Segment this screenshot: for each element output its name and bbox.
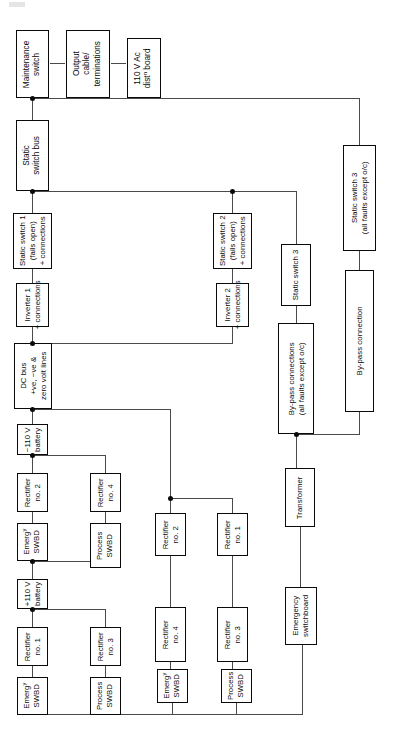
box-label: Static switch 3 — [291, 250, 301, 301]
box-label: Rectifierno. 1 — [23, 632, 43, 661]
box-battery-minus-110[interactable]: −110 Vbattery — [17, 424, 48, 455]
junction-dot-ss2-bus — [230, 189, 235, 194]
connector-rect4-to-process-a — [105, 512, 106, 523]
box-label: Rectifierno. 3 — [96, 632, 116, 661]
box-dc-bus[interactable]: DC bus+ve, −ve &zero volt lines — [14, 343, 52, 409]
box-transformer[interactable]: Transformer — [285, 468, 315, 527]
connector-rect1-to-emerg-b — [32, 666, 33, 677]
box-label: Static switch 3(all faults except o/c) — [350, 162, 370, 235]
box-label: Static switch 2(fails open)+ connections — [218, 216, 247, 267]
connector-battminus-split — [32, 455, 106, 456]
connector-battminus-branch-down — [170, 409, 171, 498]
box-label: Rectifierno. 2 — [161, 520, 181, 549]
box-rectifier-no-3-left[interactable]: Rectifierno. 3 — [90, 627, 121, 666]
box-label: Outputcable/terminations — [72, 41, 103, 86]
box-output-cable-terminations[interactable]: Outputcable/terminations — [66, 30, 110, 98]
connector-rect1mid-to-rect3mid — [232, 556, 233, 607]
connector-dcbus-to-inverter2 — [232, 327, 233, 344]
box-label: 110 V Acdistn board — [134, 48, 155, 88]
junction-dot-dcbus — [30, 341, 35, 346]
connector-emerg-c-to-bottom — [172, 703, 173, 715]
box-rectifier-no-2-mid[interactable]: Rectifierno. 2 — [155, 513, 186, 556]
box-label: +110 Vbattery — [23, 582, 43, 607]
connector-battminus-branch-right — [32, 409, 171, 410]
box-rectifier-no-2-left[interactable]: Rectifierno. 2 — [17, 473, 48, 512]
box-process-swbd-b[interactable]: ProcessSWBD — [90, 677, 121, 715]
box-label: DC bus+ve, −ve &zero volt lines — [18, 352, 47, 400]
connector-bypass-join-horizontal — [296, 434, 359, 435]
connector-rect4mid-to-emerg-c — [170, 662, 171, 669]
connector-rect3-to-process-b — [105, 666, 106, 677]
connector-output-to-distboard — [111, 63, 126, 64]
box-rectifier-no-4-mid[interactable]: Rectifierno. 4 — [155, 607, 186, 662]
connector-right-riser-to-ss3b — [359, 98, 360, 145]
junction-dot-batt-minus-bottom — [30, 453, 35, 458]
box-emerg-swbd-b[interactable]: EmergySWBD — [17, 677, 48, 715]
connector-ssbus-to-ss2 — [232, 191, 233, 213]
connector-ss-bus-horizontal — [32, 191, 297, 192]
connector-bottom-bus — [45, 714, 303, 715]
box-label: By-pass connections(all faults except o/… — [286, 342, 306, 415]
connector-battminus-to-rect4 — [105, 455, 106, 473]
box-battery-plus-110[interactable]: +110 Vbattery — [17, 579, 48, 609]
connector-dcbus-horizontal — [32, 343, 233, 344]
box-rectifier-no-1-mid[interactable]: Rectifierno. 1 — [217, 513, 248, 556]
box-label: Rectifierno. 4 — [161, 620, 181, 649]
box-label: By-pass connection — [355, 307, 365, 376]
box-static-switch-3-b[interactable]: Static switch 3(all faults except o/c) — [343, 145, 376, 251]
box-static-switch-3-a[interactable]: Static switch 3 — [281, 244, 311, 306]
junction-dot-batt-plus-bottom — [30, 607, 35, 612]
box-label: Emergencyswitchboard — [291, 595, 311, 637]
box-emergency-switchboard[interactable]: Emergencyswitchboard — [285, 587, 317, 645]
connector-battplus-to-rect1 — [32, 609, 33, 627]
connector-emerg-a-to-battplus — [32, 561, 33, 579]
connector-top-bus-right — [32, 98, 360, 99]
box-label: Static switch 1(fails open)+ connections — [18, 216, 47, 267]
box-bypass-connection[interactable]: By-pass connection — [345, 270, 374, 412]
connector-bus-to-ss1 — [32, 191, 33, 213]
box-rectifier-no-1-left[interactable]: Rectifierno. 1 — [17, 627, 48, 666]
connector-ss3b-to-bypassconn — [359, 251, 360, 270]
junction-dot-switch-bus — [30, 189, 35, 194]
box-label: EmergySWBD — [23, 683, 43, 709]
box-ac-dist-board[interactable]: 110 V Acdistn board — [127, 38, 161, 98]
box-inverter-2[interactable]: Inverter 2+ connections — [216, 283, 249, 327]
box-label: ProcessSWBD — [96, 682, 116, 711]
connector-battplus-to-rect3 — [105, 609, 106, 627]
page-corner-mark — [9, 2, 25, 7]
box-static-switch-1[interactable]: Static switch 1(fails open)+ connections — [13, 213, 52, 269]
box-label: Maintenanceswitch — [22, 40, 43, 87]
connector-node-to-transformer — [296, 434, 297, 468]
block-diagram-canvas: Maintenanceswitch Outputcable/terminatio… — [0, 0, 404, 752]
junction-dot-bypass-join — [294, 432, 299, 437]
junction-dot-mid-branch — [168, 496, 173, 501]
connector-bypassconn-to-join — [359, 412, 360, 435]
box-rectifier-no-4-left[interactable]: Rectifierno. 4 — [90, 473, 121, 512]
box-label: Rectifierno. 3 — [223, 620, 243, 649]
box-label: Transformer — [295, 476, 305, 519]
box-inverter-1[interactable]: Inverter 1+ connections — [16, 283, 49, 327]
box-static-switch-bus[interactable]: Staticswitch bus — [16, 120, 49, 191]
box-rectifier-no-3-mid[interactable]: Rectifierno. 3 — [217, 607, 248, 662]
box-label: −110 Vbattery — [23, 427, 43, 452]
box-label: Inverter 1+ connections — [23, 281, 43, 330]
connector-battminus-to-rect2 — [32, 455, 33, 473]
connector-battplus-split — [32, 609, 106, 610]
junction-dot-batt-minus-top — [30, 407, 35, 412]
box-emerg-swbd-a[interactable]: EmergySWBD — [17, 523, 48, 561]
box-label: ProcessSWBD — [96, 531, 116, 560]
box-static-switch-2[interactable]: Static switch 2(fails open)+ connections — [213, 213, 252, 269]
connector-ssbus-to-ss3a — [296, 191, 297, 244]
box-process-swbd-c[interactable]: ProcessSWBD — [221, 669, 252, 703]
connector-process-c-to-bottom — [236, 703, 237, 715]
connector-rect2-to-emerg-a — [32, 512, 33, 523]
box-bypass-connections[interactable]: By-pass connections(all faults except o/… — [278, 323, 314, 434]
box-label: EmergySWBD — [23, 529, 43, 555]
box-emerg-swbd-c[interactable]: EmergySWBD — [157, 669, 188, 703]
box-process-swbd-a[interactable]: ProcessSWBD — [90, 523, 121, 568]
box-maintenance-switch[interactable]: Maintenanceswitch — [16, 30, 49, 98]
box-label: Rectifierno. 1 — [223, 520, 243, 549]
connector-rect2mid-to-rect4mid — [170, 556, 171, 607]
connector-maintenance-to-output — [50, 63, 65, 64]
connector-mid-branch-horizontal — [170, 498, 233, 499]
